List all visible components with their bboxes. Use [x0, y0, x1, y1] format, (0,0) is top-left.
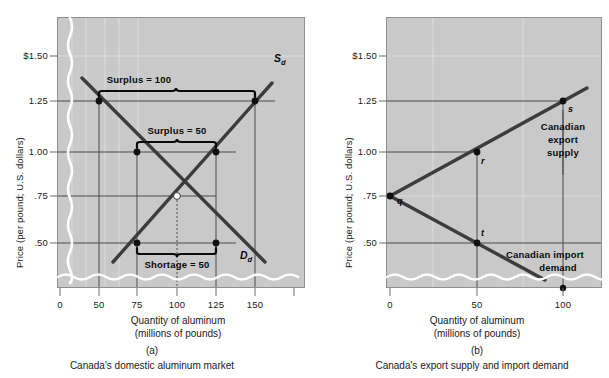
panel-a-xtick-0: 0	[46, 299, 74, 310]
panel-a-xtick-1: 50	[85, 299, 113, 310]
panel-a: $1.50 1.25 1.00 .75 .50 Price (per pound…	[0, 0, 305, 378]
panel-b-axis-break	[387, 275, 605, 280]
supply-curve-label-main: S	[274, 52, 281, 64]
panel-a-ytick-3: .75	[4, 190, 48, 201]
panel-a-xticks	[60, 288, 294, 296]
point-q-marker	[387, 193, 394, 200]
panel-a-y-axis-title: Price (per pound; U.S. dollars)	[14, 137, 25, 268]
export-supply-label-line3: supply	[547, 147, 579, 160]
panel-a-xtick-4: 125	[202, 299, 230, 310]
panel-b-xticks	[390, 288, 563, 296]
panel-a-x-axis-title-line1: Quantity of aluminum	[98, 314, 258, 327]
point-t-marker	[474, 240, 481, 247]
demand-curve-label-sub: d	[248, 255, 253, 264]
panel-a-letter: (a)	[52, 345, 252, 356]
supply-curve-label-sd: Sd	[274, 52, 286, 67]
panel-b-xtick-1: 50	[463, 299, 491, 310]
panel-a-x-axis-title-line2: (millions of pounds)	[98, 327, 258, 340]
point-label-q: q	[397, 196, 403, 206]
panel-b-xtick-0: 0	[376, 299, 404, 310]
panel-a-xtick-5: 150	[241, 299, 269, 310]
export-supply-label-line1: Canadian	[541, 121, 585, 134]
panel-b-ytick-2: 1.00	[333, 146, 377, 157]
panel-b: $1.50 1.25 1.00 .75 .50 Price (per pound…	[305, 0, 609, 378]
panel-a-caption: Canada's domestic aluminum market	[22, 360, 282, 371]
import-demand-label-line1: Canadian import	[506, 249, 584, 262]
import-demand-label-line2: demand	[539, 262, 577, 275]
panel-a-curves	[82, 78, 272, 262]
panel-b-ytick-4: .50	[333, 237, 377, 248]
panel-b-ytick-3: .75	[333, 190, 377, 201]
panel-a-xtick-3: 100	[163, 299, 191, 310]
point-r-marker	[474, 149, 481, 156]
panel-b-letter: (b)	[377, 345, 577, 356]
panel-a-ytick-1: 1.25	[4, 95, 48, 106]
annotation-shortage-50: Shortage = 50	[144, 259, 209, 270]
annotation-surplus-50: Surplus = 50	[147, 125, 206, 136]
panel-b-yticks	[379, 56, 387, 243]
panel-b-xtick-2: 100	[549, 299, 577, 310]
import-demand-curve	[390, 196, 545, 280]
demand-curve-label-dd: Dd	[240, 249, 252, 264]
demand-curve-label-main: D	[240, 249, 248, 261]
export-supply-label-line2: export	[548, 134, 578, 147]
point-label-t: t	[481, 228, 484, 238]
supply-curve-label-sub: d	[281, 58, 286, 67]
point-label-r: r	[481, 156, 485, 166]
panel-b-x-axis-title-line2: (millions of pounds)	[397, 327, 557, 340]
annotation-surplus-100: Surplus = 100	[107, 74, 172, 85]
panel-b-ytick-0: $1.50	[333, 50, 377, 61]
panel-a-yticks	[50, 56, 58, 243]
panel-b-ytick-1: 1.25	[333, 95, 377, 106]
panel-a-ytick-0: $1.50	[4, 50, 48, 61]
point-s-marker	[560, 98, 567, 105]
demand-curve-dd	[82, 78, 265, 262]
panel-b-x-axis-title-line1: Quantity of aluminum	[397, 314, 557, 327]
economics-figure: $1.50 1.25 1.00 .75 .50 Price (per pound…	[0, 0, 609, 378]
panel-b-caption: Canada's export supply and import demand	[327, 360, 609, 371]
panel-a-ytick-2: 1.00	[4, 146, 48, 157]
point-label-s: s	[568, 104, 573, 114]
panel-a-ytick-4: .50	[4, 237, 48, 248]
panel-b-y-axis-title: Price (per pound; U.S. dollars)	[343, 137, 354, 268]
panel-a-xtick-2: 75	[123, 299, 151, 310]
